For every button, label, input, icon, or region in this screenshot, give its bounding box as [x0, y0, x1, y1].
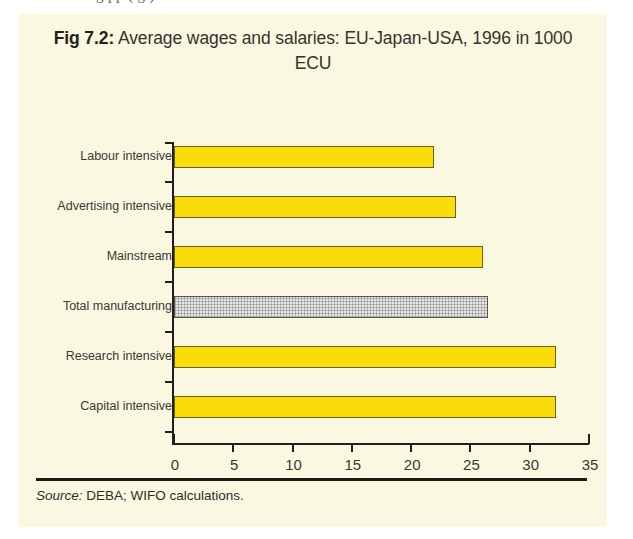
y-axis-tick: [165, 231, 173, 233]
category-label: Labour intensive: [2, 149, 172, 163]
source-divider: [36, 478, 587, 481]
x-axis-tick: [292, 443, 294, 452]
y-axis-tick: [165, 142, 173, 144]
figure-panel: Fig 7.2: Average wages and salaries: EU-…: [19, 14, 607, 527]
bar: [174, 146, 434, 168]
cut-off-text-line: g pp ( g ): [0, 0, 633, 14]
bar: [174, 396, 556, 418]
source-value: DEBA; WIFO calculations.: [83, 488, 244, 503]
x-axis-tick: [529, 443, 531, 452]
bar: [174, 346, 556, 368]
y-axis-tick: [165, 381, 173, 383]
x-axis-tick: [469, 443, 471, 452]
bar: [174, 296, 488, 318]
y-axis-tick: [165, 431, 173, 433]
y-axis-tick: [165, 331, 173, 333]
bar: [174, 246, 483, 268]
chart-title-text: Average wages and salaries: EU-Japan-USA…: [114, 28, 572, 73]
figure-page: g pp ( g ) Fig 7.2: Average wages and sa…: [0, 0, 633, 539]
category-label: Advertising intensive: [2, 199, 172, 213]
figure-number: Fig 7.2:: [54, 28, 114, 48]
x-axis-tick-label: 10: [274, 456, 314, 473]
x-axis-tick: [173, 434, 175, 444]
y-axis-tick: [165, 181, 173, 183]
x-axis-tick-label: 30: [511, 456, 551, 473]
x-axis-tick: [232, 443, 234, 452]
x-axis-tick-label: 25: [451, 456, 491, 473]
bar: [174, 196, 456, 218]
category-label: Research intensive: [2, 349, 172, 363]
category-label: Capital intensive: [2, 399, 172, 413]
cut-off-text: g pp ( g ): [96, 0, 155, 4]
y-axis-tick: [165, 281, 173, 283]
source-note: Source: DEBA; WIFO calculations.: [36, 488, 244, 503]
chart-title: Fig 7.2: Average wages and salaries: EU-…: [39, 26, 587, 76]
category-label: Total manufacturing: [2, 299, 172, 313]
x-axis-tick: [588, 434, 590, 444]
plot-area: Labour intensiveAdvertising intensiveMai…: [19, 122, 607, 452]
x-axis-tick-label: 0: [155, 456, 195, 473]
x-axis-tick: [410, 443, 412, 452]
x-axis-tick-label: 5: [214, 456, 254, 473]
source-label: Source:: [36, 488, 83, 503]
category-label: Mainstream: [2, 249, 172, 263]
x-axis-line: [172, 443, 589, 445]
x-axis-tick-label: 15: [333, 456, 373, 473]
x-axis-tick: [351, 443, 353, 452]
x-axis-tick-label: 35: [570, 456, 610, 473]
x-axis-tick-label: 20: [392, 456, 432, 473]
